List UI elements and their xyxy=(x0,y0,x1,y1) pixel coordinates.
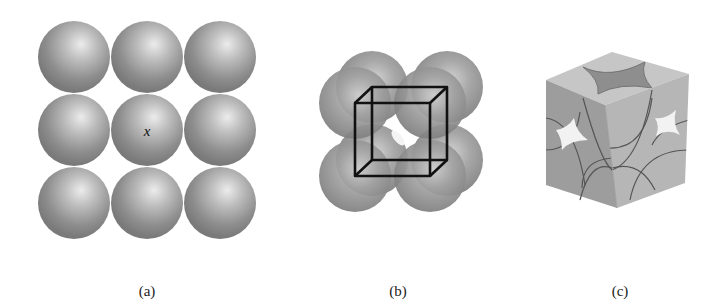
panel-b-unit-cell xyxy=(319,51,483,212)
caption-c: (c) xyxy=(612,283,629,300)
sphere-icon xyxy=(184,167,256,239)
figure-canvas: x (a) (b) (c) xyxy=(0,0,707,308)
caption-a: (a) xyxy=(139,283,156,300)
sphere-icon xyxy=(38,167,110,239)
sphere-icon xyxy=(38,94,110,166)
figure-svg xyxy=(0,0,707,308)
sphere-icon xyxy=(184,94,256,166)
sphere-icon xyxy=(111,167,183,239)
panel-c-space-filling-cell xyxy=(546,52,689,208)
caption-b: (b) xyxy=(389,283,407,300)
sphere-icon xyxy=(111,21,183,93)
sphere-icon xyxy=(38,21,110,93)
central-atom-label: x xyxy=(144,123,151,140)
sphere-icon xyxy=(184,21,256,93)
